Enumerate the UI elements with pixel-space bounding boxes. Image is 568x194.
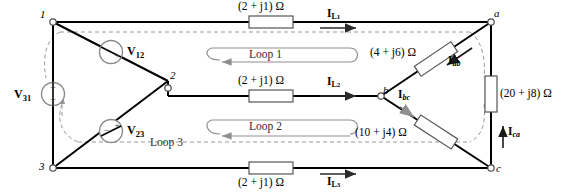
current-iab-sub: ab xyxy=(452,59,460,68)
impedance-label-line-2: (2 + j1) Ω xyxy=(238,75,284,87)
source-label-v12: V12 xyxy=(127,45,144,60)
v12-minus-sign: − xyxy=(103,44,108,54)
node-label-c: c xyxy=(496,163,501,174)
impedance-label-line-1: (2 + j1) Ω xyxy=(238,1,284,13)
current-label-il2: IL2 xyxy=(327,76,340,89)
source-v12-sub: 12 xyxy=(136,50,145,60)
source-label-v31: V31 xyxy=(14,88,31,103)
resistor-line-1 xyxy=(249,16,293,28)
current-il2-sub2: 2 xyxy=(337,81,341,89)
impedance-label-ca: (20 + j8) Ω xyxy=(500,88,552,100)
circuit-schematic-canvas: − + − + − + xyxy=(0,0,568,194)
node-label-b: b xyxy=(383,85,389,96)
source-v12-base: V xyxy=(127,44,136,58)
node-label-3: 3 xyxy=(39,161,45,172)
source-v31-base: V xyxy=(14,87,23,101)
loop-label-2: Loop 2 xyxy=(249,121,282,133)
loop-label-3: Loop 3 xyxy=(150,137,183,149)
current-il1-sub2: 1 xyxy=(337,13,341,21)
loop-label-1: Loop 1 xyxy=(249,49,282,61)
current-label-ica: Ica xyxy=(508,126,520,139)
v31-plus-sign: + xyxy=(50,94,56,105)
source-v31-sub: 31 xyxy=(23,93,32,103)
loop1-arrow xyxy=(207,48,358,62)
node-label-2: 2 xyxy=(170,70,176,81)
source-v23-base: V xyxy=(127,123,136,137)
current-arrow-ibc xyxy=(400,107,414,117)
impedance-label-line-3: (2 + j1) Ω xyxy=(238,177,284,189)
node-label-1: 1 xyxy=(40,9,46,20)
current-label-ibc: Ibc xyxy=(398,89,410,102)
impedance-label-bc: (10 + j4) Ω xyxy=(355,127,407,139)
resistor-line-3 xyxy=(249,162,293,174)
resistor-bc xyxy=(414,115,457,149)
loop2-arrow xyxy=(207,120,358,136)
source-v23-sub: 23 xyxy=(136,129,145,139)
current-label-il1: IL1 xyxy=(327,8,340,21)
v23-plus-sign: + xyxy=(114,120,119,130)
v31-polarity-marks: − + xyxy=(50,82,56,105)
v12-plus-sign: + xyxy=(114,50,119,60)
current-label-il3: IL3 xyxy=(327,176,340,189)
source-label-v23: V23 xyxy=(127,124,144,139)
resistor-line-2 xyxy=(249,90,293,102)
current-label-iab: Iab xyxy=(448,55,460,68)
current-ibc-sub: bc xyxy=(402,93,410,102)
resistor-ca xyxy=(485,76,497,112)
v23-minus-sign: − xyxy=(103,125,108,135)
current-ica-sub: ca xyxy=(512,130,520,139)
v31-minus-sign: − xyxy=(50,82,56,93)
node-label-a: a xyxy=(494,8,500,19)
current-il3-sub2: 3 xyxy=(337,181,341,189)
impedance-label-ab: (4 + j6) Ω xyxy=(370,47,416,59)
circuit-diagram-figure: − + − + − + 1 2 3 a b c (2 + j1) Ω (2 + … xyxy=(0,0,568,194)
